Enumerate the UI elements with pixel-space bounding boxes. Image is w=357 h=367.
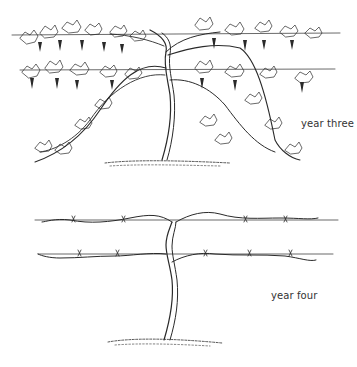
year-four-vine [35, 212, 338, 346]
vine-illustration [0, 0, 357, 367]
leaves [20, 17, 322, 154]
grape-clusters [30, 38, 304, 93]
trellis-wire-top [12, 33, 340, 35]
trunk [150, 30, 171, 160]
year-three-vine [12, 17, 340, 166]
stage-label-year-four: year four [271, 290, 317, 301]
trellis-wire-bottom [20, 69, 335, 70]
stage-label-year-three: year three [301, 118, 354, 129]
